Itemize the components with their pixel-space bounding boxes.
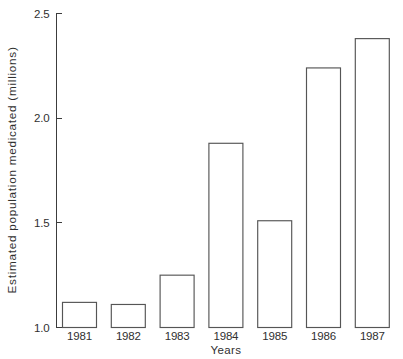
x-axis-tick-label: 1984 xyxy=(214,330,240,342)
x-axis-tick-label: 1987 xyxy=(360,330,385,342)
bar-chart: 2.52.01.51.0 198119821983198419851986198… xyxy=(0,0,403,359)
y-axis-tick-label: 2.0 xyxy=(34,112,49,124)
x-axis-tick-label: 1982 xyxy=(116,330,141,342)
x-axis-tick-label: 1983 xyxy=(165,330,190,342)
chart-canvas: 2.52.01.51.0 198119821983198419851986198… xyxy=(0,0,403,359)
y-axis-title: Estimated population medicated (millions… xyxy=(5,46,19,293)
bar-1986[interactable] xyxy=(307,68,341,328)
bar-1981[interactable] xyxy=(63,302,97,327)
x-axis-tick-label: 1981 xyxy=(67,330,92,342)
bar-1987[interactable] xyxy=(355,39,389,328)
bar-1985[interactable] xyxy=(258,221,292,328)
chart-background xyxy=(0,0,403,359)
y-axis-tick-label: 1.0 xyxy=(34,322,49,334)
x-axis-tick-label: 1986 xyxy=(311,330,336,342)
bar-1982[interactable] xyxy=(111,304,145,327)
x-axis-title: Years xyxy=(211,344,242,356)
y-axis-tick-label: 1.5 xyxy=(34,217,49,229)
y-axis-tick-label: 2.5 xyxy=(34,8,49,20)
x-axis-tick-label: 1985 xyxy=(262,330,287,342)
bar-1983[interactable] xyxy=(160,275,194,327)
bar-1984[interactable] xyxy=(209,143,243,327)
